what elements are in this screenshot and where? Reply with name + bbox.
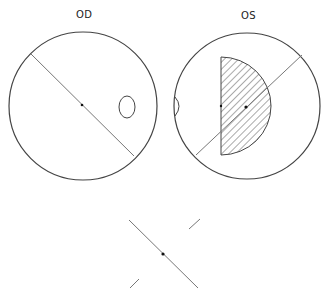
os-fixation-dot [244, 105, 247, 108]
os-left-dot [220, 105, 222, 107]
cross-upper-segment [189, 219, 200, 229]
cross-lower-segment [130, 279, 139, 288]
od-blind-spot [119, 96, 135, 118]
chiasm-cross-diagram [129, 219, 200, 288]
od-fixation-dot [81, 104, 84, 107]
cross-center-dot [161, 252, 164, 255]
os-blind-spot [175, 97, 179, 116]
visual-field-diagram [0, 0, 322, 289]
od-field [9, 32, 157, 180]
os-field [174, 33, 320, 179]
